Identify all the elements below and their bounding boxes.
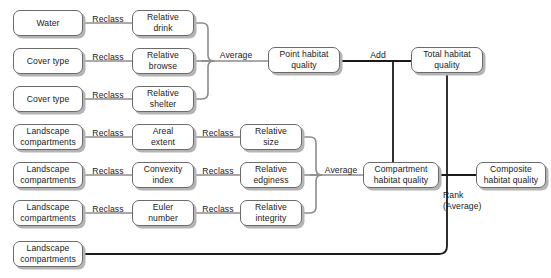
edge-label-average-2: Average [318, 165, 364, 176]
edge-label-reclass-7: Reclass [197, 128, 239, 139]
node-point-habitat-quality[interactable]: Point habitatquality [268, 47, 340, 73]
node-convexity-index[interactable]: Convexityindex [132, 162, 194, 188]
node-relative-browse[interactable]: Relativebrowse [132, 48, 194, 74]
edge-label-reclass-9: Reclass [197, 204, 239, 215]
edge-label-reclass-6: Reclass [87, 204, 129, 215]
bracket-point-habitat [194, 23, 214, 99]
node-landscape-compartments-2[interactable]: Landscapecompartments [13, 162, 83, 188]
edge-label-reclass-1: Reclass [87, 14, 129, 25]
edge-label-add: Add [363, 50, 393, 61]
node-relative-shelter[interactable]: Relativeshelter [132, 86, 194, 112]
edge-label-reclass-3: Reclass [87, 90, 129, 101]
node-landscape-compartments-3[interactable]: Landscapecompartments [13, 200, 83, 226]
edge-label-reclass-5: Reclass [87, 166, 129, 177]
node-relative-drink[interactable]: Relativedrink [132, 10, 194, 36]
node-landscape-compartments-4[interactable]: Landscapecompartments [13, 241, 83, 267]
edge-label-reclass-8: Reclass [197, 166, 239, 177]
node-water[interactable]: Water [13, 10, 83, 36]
flowchart-diagram: Water Cover type Cover type Landscapecom… [0, 0, 551, 278]
node-euler-number[interactable]: Eulernumber [132, 200, 194, 226]
edge-label-rank-average: Rank(Average) [443, 190, 493, 211]
node-total-habitat-quality[interactable]: Total habitatquality [411, 47, 483, 73]
node-relative-size[interactable]: Relativesize [240, 124, 302, 150]
node-cover-type-2[interactable]: Cover type [13, 86, 83, 112]
node-landscape-compartments-1[interactable]: Landscapecompartments [13, 124, 83, 150]
edge-label-reclass-2: Reclass [87, 52, 129, 63]
node-relative-edginess[interactable]: Relativeedginess [240, 162, 302, 188]
node-compartment-habitat-quality[interactable]: Compartmenthabitat quality [363, 162, 439, 188]
node-areal-extent[interactable]: Arealextent [132, 124, 194, 150]
node-cover-type-1[interactable]: Cover type [13, 48, 83, 74]
edge-label-average-1: Average [213, 50, 259, 61]
edge-label-reclass-4: Reclass [87, 128, 129, 139]
node-composite-habitat-quality[interactable]: Compositehabitat quality [476, 162, 546, 188]
node-relative-integrity[interactable]: Relativeintegrity [240, 200, 302, 226]
